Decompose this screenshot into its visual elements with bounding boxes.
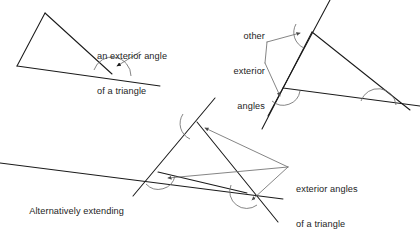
leader-line-2a	[267, 33, 300, 42]
other-exterior-angles-line1: other	[185, 31, 265, 43]
diagram-canvas: an exterior angle of a triangle other ex…	[0, 0, 420, 230]
exterior-angles-line2: of a triangle	[296, 219, 358, 230]
exterior-angles-of-a-triangle-label: exterior angles of a triangle	[296, 161, 358, 230]
leader-line-2b	[265, 63, 280, 96]
triangle-2-side-apex-extended	[262, 32, 312, 129]
triangle-1-side-left	[17, 13, 45, 66]
an-exterior-angle-label: an exterior angle of a triangle	[97, 28, 167, 121]
an-exterior-angle-line1: an exterior angle	[97, 51, 167, 63]
angle-arc-3c	[230, 185, 257, 208]
leader-line-3c	[252, 167, 288, 200]
other-exterior-angles-line3: angles	[185, 101, 265, 113]
alternatively-extending-line1: Alternatively extending	[4, 206, 124, 218]
other-exterior-angles-line2: exterior	[185, 66, 265, 78]
exterior-angles-line1: exterior angles	[296, 184, 358, 196]
angle-arc-2a	[294, 24, 304, 48]
an-exterior-angle-line2: of a triangle	[97, 86, 167, 98]
other-exterior-angles-label: other exterior angles	[185, 8, 265, 136]
leader-line-2-stem	[265, 42, 267, 63]
panel-2-triangle	[262, 0, 420, 129]
leader-line-3b	[168, 167, 288, 178]
triangle-2-base-extended	[283, 88, 420, 106]
alternatively-extending-label: Alternatively extending the lines in thr…	[4, 183, 124, 230]
angle-arc-2b	[272, 91, 300, 105]
